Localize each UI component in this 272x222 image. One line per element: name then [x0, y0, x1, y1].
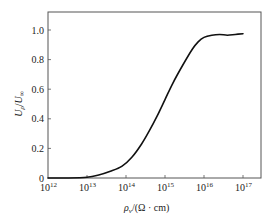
x-tick-label: 1013 [79, 181, 97, 193]
plot-frame [48, 12, 261, 178]
data-series-line [48, 34, 243, 178]
x-tick-label: 1016 [196, 181, 214, 193]
y-axis-label: Uρ/U∞ [13, 91, 26, 117]
y-tick-label: 0.4 [32, 113, 45, 124]
line-chart: 101210131014101510161017 00.20.40.60.81.… [0, 0, 272, 222]
y-tick-label: 0.8 [32, 54, 45, 65]
y-axis-denominator-sub: ∞ [18, 91, 26, 96]
y-tick-label: 0.2 [32, 143, 45, 154]
y-tick-label: 0 [39, 173, 44, 184]
y-tick-label: 0.6 [32, 84, 45, 95]
x-axis-unit: /(Ω · cm) [132, 202, 169, 214]
x-tick-label: 1017 [235, 181, 253, 193]
x-tick-label: 1014 [118, 181, 136, 193]
x-axis-label: ρv/(Ω · cm) [123, 202, 169, 215]
x-tick-label: 1015 [157, 181, 175, 193]
y-tick-label: 1.0 [32, 25, 45, 36]
